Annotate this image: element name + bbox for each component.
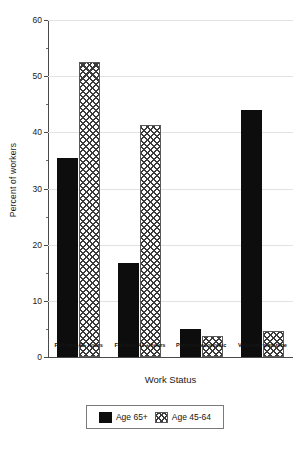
y-tick-label: 0 [37, 353, 42, 362]
bar-group [171, 20, 232, 357]
y-tick-label: 10 [33, 297, 42, 306]
x-tick-label: Full-time,41 + hours [114, 342, 165, 348]
cross-hatch-swatch [155, 412, 168, 423]
y-tick-label: 60 [33, 16, 42, 25]
bar-age-65-plus [57, 158, 78, 357]
bar-age-45-64 [79, 62, 100, 357]
y-tick-major [44, 357, 48, 358]
x-tick-label: Voluntary part-time [238, 342, 287, 348]
legend-label: Age 65+ [116, 412, 148, 422]
legend-label: Age 45-64 [172, 412, 211, 422]
bar-age-45-64 [140, 125, 161, 357]
bar-group [48, 20, 109, 357]
legend-item[interactable]: Age 65+ [99, 412, 148, 423]
y-tick-label: 30 [33, 184, 42, 193]
y-tick-label: 20 [33, 240, 42, 249]
x-tick-label: Full-time,40- hours [55, 342, 103, 348]
x-tick-label: Part-time,economic [176, 342, 226, 348]
y-tick-label: 50 [33, 72, 42, 81]
bar-group [232, 20, 293, 357]
plot-area: 0102030405060 [48, 20, 293, 358]
bar-chart-figure: Percent of workers 0102030405060 Full-ti… [0, 0, 307, 449]
bar-group [109, 20, 170, 357]
y-axis-title-text: Percent of workers [8, 143, 18, 217]
x-axis-line [48, 357, 293, 358]
bar-group-container [48, 20, 293, 357]
chart-legend: Age 65+Age 45-64 [86, 405, 224, 429]
bar-age-65-plus [241, 110, 262, 357]
y-tick-label: 40 [33, 128, 42, 137]
solid-black-swatch [99, 412, 112, 423]
y-axis-title: Percent of workers [0, 0, 10, 120]
x-axis-title: Work Status [48, 374, 293, 385]
legend-item[interactable]: Age 45-64 [155, 412, 211, 423]
